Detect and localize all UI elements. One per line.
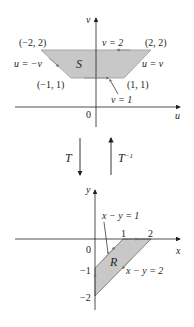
top-origin-label: 0 bbox=[86, 110, 91, 120]
diagram-canvas bbox=[0, 0, 194, 327]
u-axis-label: u bbox=[175, 111, 180, 121]
t-inverse-exponent: −1 bbox=[125, 152, 133, 160]
vertex-top-right-label: (2, 2) bbox=[145, 38, 167, 48]
upper-boundary-label: x − y = 1 bbox=[102, 211, 139, 221]
bottom-boundary-label: v = 1 bbox=[111, 95, 132, 105]
xy1-pointer bbox=[104, 222, 108, 253]
x-tick-2: 2 bbox=[148, 229, 153, 239]
vertex-bottom-right-label: (1, 1) bbox=[127, 80, 149, 90]
region-r-label: R bbox=[110, 256, 117, 268]
t-label: T bbox=[65, 152, 72, 164]
y-tick-minus-1: −1 bbox=[80, 266, 91, 276]
t-inverse-label: T−1 bbox=[118, 152, 133, 164]
lower-boundary-label: x − y = 2 bbox=[126, 266, 163, 276]
v1-pointer bbox=[110, 80, 118, 94]
left-boundary-label: u = −v bbox=[14, 59, 42, 69]
region-s-label: S bbox=[76, 58, 82, 70]
v-axis-label: v bbox=[86, 15, 90, 25]
right-boundary-label: u = v bbox=[142, 59, 163, 69]
t-inverse-base: T bbox=[118, 151, 125, 165]
x-axis-label: x bbox=[176, 246, 180, 256]
top-plot bbox=[15, 18, 180, 127]
vertex-top-left-label: (−2, 2) bbox=[19, 38, 46, 48]
bottom-plot bbox=[15, 190, 180, 310]
y-axis-label: y bbox=[86, 185, 90, 195]
vertex-bottom-left-label: (−1, 1) bbox=[37, 80, 64, 90]
y-tick-minus-2: −2 bbox=[80, 293, 91, 303]
top-boundary-label: v = 2 bbox=[102, 38, 123, 48]
x-tick-1: 1 bbox=[121, 229, 126, 239]
bottom-origin-label: 0 bbox=[86, 245, 91, 255]
